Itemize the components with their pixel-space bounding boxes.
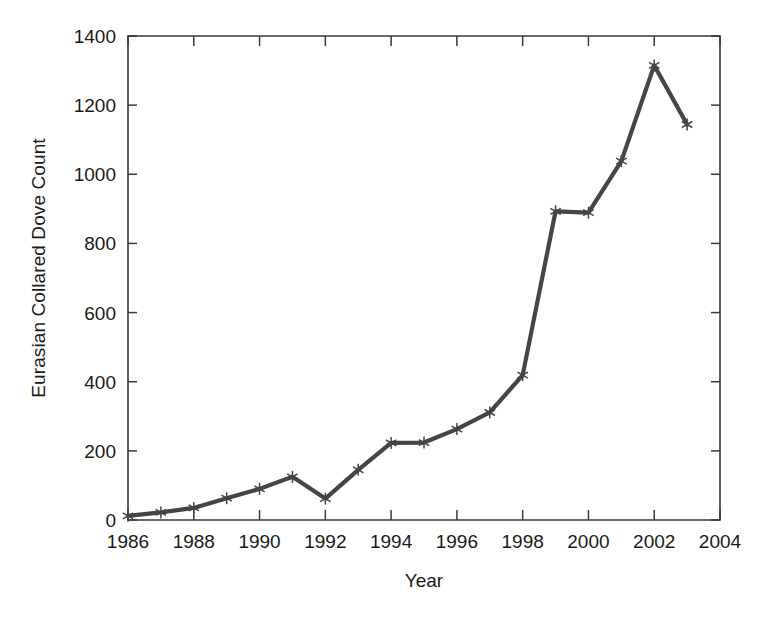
y-tick-label: 600 <box>84 303 116 324</box>
y-tick-label: 800 <box>84 233 116 254</box>
x-tick-label: 2004 <box>699 531 742 552</box>
y-tick-label: 0 <box>105 510 116 531</box>
x-axis-title: Year <box>128 570 720 592</box>
x-tick-label: 1990 <box>238 531 280 552</box>
x-tick-label: 1994 <box>370 531 413 552</box>
x-tick-label: 1988 <box>173 531 215 552</box>
x-tick-label: 2002 <box>633 531 675 552</box>
chart-figure: Eurasian Collared Dove Count Year 020040… <box>0 0 770 620</box>
x-tick-label: 2000 <box>567 531 609 552</box>
y-tick-label: 1000 <box>74 164 116 185</box>
y-tick-label: 1200 <box>74 95 116 116</box>
x-tick-label: 1996 <box>436 531 478 552</box>
x-tick-label: 1998 <box>502 531 544 552</box>
x-axis-ticks: 1986198819901992199419961998200020022004 <box>107 36 742 552</box>
y-axis-ticks: 0200400600800100012001400 <box>74 26 720 531</box>
data-series-dove-count <box>123 59 693 521</box>
line-chart-plot: 0200400600800100012001400 19861988199019… <box>0 0 770 620</box>
y-tick-label: 400 <box>84 372 116 393</box>
y-tick-label: 200 <box>84 441 116 462</box>
x-tick-label: 1986 <box>107 531 149 552</box>
y-axis-title: Eurasian Collared Dove Count <box>22 28 56 508</box>
x-tick-label: 1992 <box>304 531 346 552</box>
y-tick-label: 1400 <box>74 26 116 47</box>
